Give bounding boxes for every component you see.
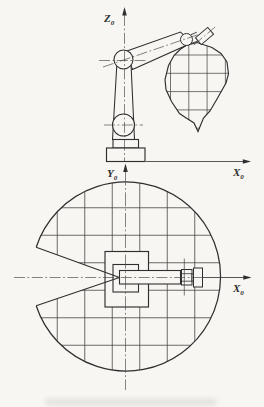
x-axis-elevation-arrowhead — [243, 159, 251, 163]
x-axis-elevation — [146, 159, 251, 163]
wrist-joint — [181, 34, 193, 46]
z-axis-arrowhead — [122, 7, 127, 16]
x-axis-plan-label: X0 — [232, 282, 244, 297]
figure-page: Z0 X0 Y0 X0 — [0, 0, 264, 407]
x-axis-elevation-label: X0 — [232, 166, 244, 181]
plan-view — [14, 164, 252, 391]
shoulder-joint — [114, 50, 133, 69]
y-axis-plan-label: Y0 — [107, 167, 118, 182]
x-axis-plan-arrowhead — [243, 275, 251, 279]
z-axis-label: Z0 — [103, 12, 115, 27]
robot-base-upper — [113, 140, 139, 149]
robot-envelope-drawing: Z0 X0 Y0 X0 — [0, 0, 264, 407]
z-axis — [122, 7, 127, 16]
y-axis-arrowhead — [123, 164, 128, 173]
caption-smudge — [45, 398, 217, 406]
side-work-envelope — [165, 43, 229, 132]
elevation-view — [99, 7, 251, 164]
robot-base-lower — [107, 148, 146, 162]
